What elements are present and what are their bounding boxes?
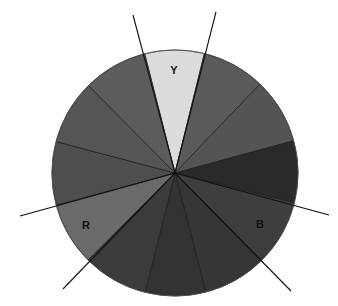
- label-yellow: Y: [170, 64, 178, 76]
- color-wheel: Y R B: [0, 0, 338, 306]
- label-blue: B: [256, 218, 264, 230]
- label-red: R: [82, 219, 90, 231]
- color-wheel-diagram: Y R B: [0, 0, 338, 306]
